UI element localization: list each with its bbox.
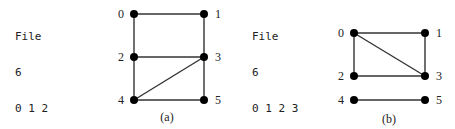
node-label-2: 2 — [338, 69, 344, 83]
graph-a: 012345 — [118, 7, 221, 107]
node-label-5: 5 — [436, 93, 442, 107]
node-2 — [350, 72, 358, 80]
node-label-4: 4 — [118, 93, 124, 107]
node-2 — [130, 53, 138, 61]
node-3 — [421, 72, 429, 80]
graph-diagrams: 012345 012345 (a) (b) — [0, 0, 455, 129]
node-label-0: 0 — [118, 7, 124, 21]
node-label-3: 3 — [215, 50, 221, 64]
node-label-1: 1 — [436, 26, 442, 40]
node-5 — [421, 96, 429, 104]
node-label-3: 3 — [436, 69, 442, 83]
node-0 — [130, 10, 138, 18]
edge-3-4 — [134, 57, 204, 100]
node-1 — [200, 10, 208, 18]
node-label-2: 2 — [118, 50, 124, 64]
caption-b: (b) — [382, 112, 396, 126]
caption-a: (a) — [160, 110, 173, 124]
graph-b: 012345 — [338, 26, 442, 107]
node-label-5: 5 — [215, 93, 221, 107]
node-4 — [130, 96, 138, 104]
node-1 — [421, 29, 429, 37]
node-3 — [200, 53, 208, 61]
node-0 — [350, 29, 358, 37]
node-label-4: 4 — [338, 93, 344, 107]
node-5 — [200, 96, 208, 104]
node-label-0: 0 — [338, 26, 344, 40]
edge-0-3 — [354, 33, 425, 76]
node-4 — [350, 96, 358, 104]
node-label-1: 1 — [215, 7, 221, 21]
